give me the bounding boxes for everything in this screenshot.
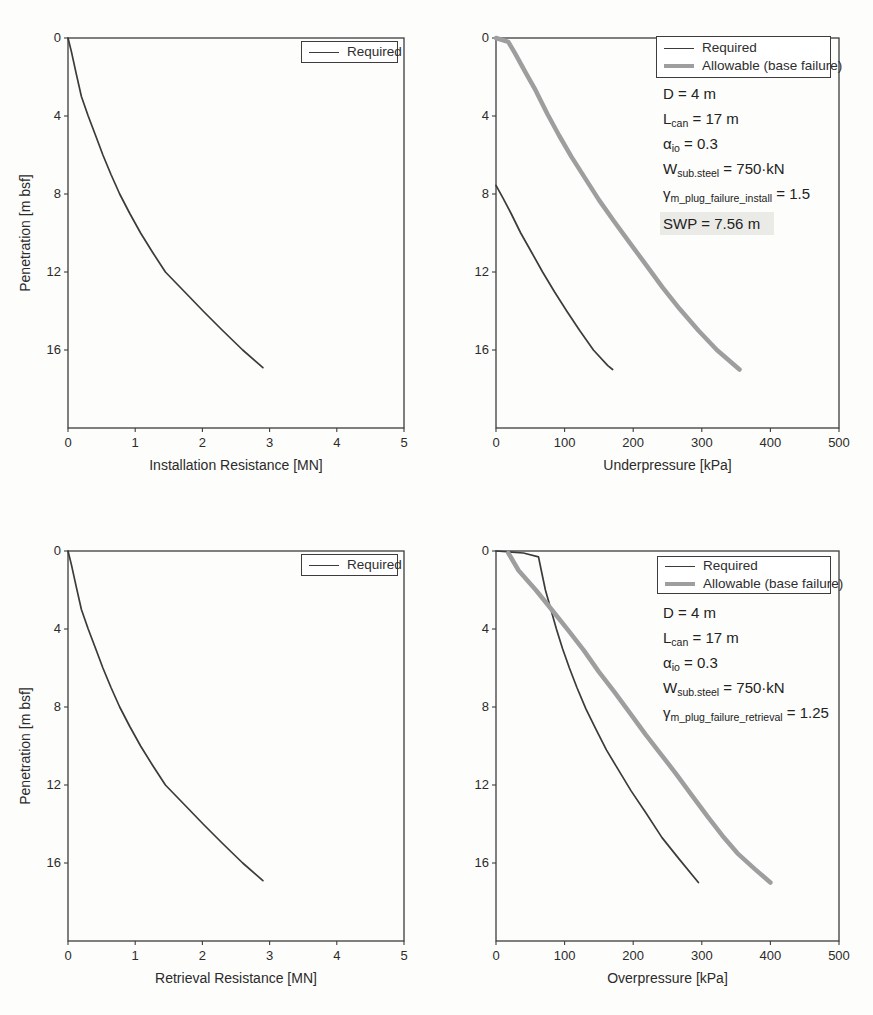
annotation-symbol: W [663, 679, 677, 696]
svg-text:8: 8 [482, 186, 489, 201]
annotation-value: = 0.3 [680, 654, 718, 671]
svg-text:12: 12 [475, 777, 489, 792]
svg-text:400: 400 [760, 948, 782, 963]
annotation-symbol: γ [663, 185, 671, 202]
annotation-value: = 4 m [674, 85, 716, 102]
annotation-subscript: m_plug_failure_retrieval [671, 711, 783, 723]
svg-text:5: 5 [400, 948, 407, 963]
svg-text:2: 2 [199, 435, 206, 450]
svg-text:500: 500 [828, 435, 850, 450]
svg-text:400: 400 [760, 435, 782, 450]
annotation-gamma-install: γm_plug_failure_install = 1.5 [663, 185, 810, 202]
svg-text:Penetration [m bsf]: Penetration [m bsf] [17, 687, 33, 805]
svg-text:16: 16 [475, 855, 489, 870]
svg-text:2: 2 [199, 948, 206, 963]
svg-text:8: 8 [482, 699, 489, 714]
svg-text:1: 1 [132, 948, 139, 963]
annotation-value: = 1.25 [783, 704, 829, 721]
svg-text:8: 8 [54, 699, 61, 714]
svg-text:4: 4 [333, 948, 340, 963]
annotation-steel-weight: Wsub.steel = 750·kN [663, 679, 829, 696]
legend-installation: Required [301, 41, 398, 63]
legend-label: Allowable (base failure) [703, 577, 843, 591]
annotation-symbol: SWP [663, 215, 697, 232]
svg-text:4: 4 [54, 108, 61, 123]
svg-text:0: 0 [54, 543, 61, 558]
annotation-value: = 750·kN [719, 679, 784, 696]
svg-text:0: 0 [492, 948, 499, 963]
svg-text:3: 3 [266, 435, 273, 450]
svg-text:5: 5 [400, 435, 407, 450]
svg-text:8: 8 [54, 186, 61, 201]
svg-text:0: 0 [482, 543, 489, 558]
legend-entry-required: Required [664, 41, 823, 55]
legend-label: Required [347, 45, 402, 59]
svg-text:0: 0 [64, 435, 71, 450]
required-line-swatch [309, 52, 339, 53]
svg-text:100: 100 [554, 435, 576, 450]
annotation-value: = 7.56 m [697, 215, 760, 232]
annotation-symbol: α [663, 135, 672, 152]
svg-text:3: 3 [266, 948, 273, 963]
svg-text:Underpressure [kPa]: Underpressure [kPa] [603, 457, 731, 473]
svg-text:0: 0 [54, 30, 61, 45]
annotation-subscript: io [672, 661, 680, 673]
annotation-subscript: sub.steel [677, 686, 719, 698]
annotation-swp: SWP = 7.56 m [660, 212, 774, 235]
figure-page: 0123450481216Installation Resistance [MN… [0, 0, 873, 1015]
legend-underpressure: Required Allowable (base failure) [656, 36, 831, 78]
legend-entry-allowable: Allowable (base failure) [665, 577, 823, 591]
legend-label: Required [702, 41, 757, 55]
svg-text:12: 12 [47, 777, 61, 792]
required-line-swatch [309, 565, 339, 566]
annotation-subscript: sub.steel [677, 167, 719, 179]
annotation-diameter: D = 4 m [663, 604, 829, 621]
annotation-subscript: m_plug_failure_install [671, 192, 773, 204]
annotation-value: = 4 m [674, 604, 716, 621]
svg-text:Retrieval Resistance [MN]: Retrieval Resistance [MN] [155, 970, 317, 986]
svg-text:1: 1 [132, 435, 139, 450]
annotation-steel-weight: Wsub.steel = 750·kN [663, 160, 810, 177]
legend-label: Required [703, 559, 758, 573]
annotation-symbol: γ [663, 704, 671, 721]
parameter-annotations-retrieval: D = 4 m Lcan = 17 m αio = 0.3 Wsub.steel… [663, 604, 829, 729]
annotation-symbol: D [663, 604, 674, 621]
legend-entry-allowable: Allowable (base failure) [664, 59, 823, 73]
installation-resistance-plot: 0123450481216Installation Resistance [MN… [0, 0, 437, 515]
svg-text:300: 300 [691, 948, 713, 963]
svg-text:100: 100 [554, 948, 576, 963]
annotation-subscript: io [672, 142, 680, 154]
svg-text:Overpressure [kPa]: Overpressure [kPa] [607, 970, 728, 986]
annotation-symbol: α [663, 654, 672, 671]
svg-text:0: 0 [64, 948, 71, 963]
svg-text:500: 500 [828, 948, 850, 963]
svg-text:200: 200 [622, 948, 644, 963]
parameter-annotations-install: D = 4 m Lcan = 17 m αio = 0.3 Wsub.steel… [663, 85, 810, 243]
annotation-value: = 17 m [688, 110, 738, 127]
allowable-line-swatch [665, 582, 695, 586]
legend-overpressure: Required Allowable (base failure) [657, 556, 831, 594]
svg-text:4: 4 [54, 621, 61, 636]
svg-text:16: 16 [47, 342, 61, 357]
annotation-alpha: αio = 0.3 [663, 654, 829, 671]
annotation-value: = 750·kN [719, 160, 784, 177]
annotation-can-length: Lcan = 17 m [663, 110, 810, 127]
svg-text:4: 4 [333, 435, 340, 450]
svg-text:4: 4 [482, 621, 489, 636]
annotation-diameter: D = 4 m [663, 85, 810, 102]
legend-entry-required: Required [665, 559, 823, 573]
svg-text:Penetration [m bsf]: Penetration [m bsf] [17, 174, 33, 292]
required-line-swatch [664, 48, 694, 49]
svg-text:16: 16 [47, 855, 61, 870]
annotation-subscript: can [671, 117, 688, 129]
annotation-value: = 17 m [688, 629, 738, 646]
annotation-subscript: can [671, 636, 688, 648]
legend-entry-required: Required [309, 45, 390, 59]
svg-text:0: 0 [492, 435, 499, 450]
annotation-can-length: Lcan = 17 m [663, 629, 829, 646]
svg-text:0: 0 [482, 30, 489, 45]
svg-text:4: 4 [482, 108, 489, 123]
allowable-line-swatch [664, 64, 694, 68]
legend-label: Required [347, 558, 402, 572]
legend-retrieval: Required [301, 554, 398, 576]
